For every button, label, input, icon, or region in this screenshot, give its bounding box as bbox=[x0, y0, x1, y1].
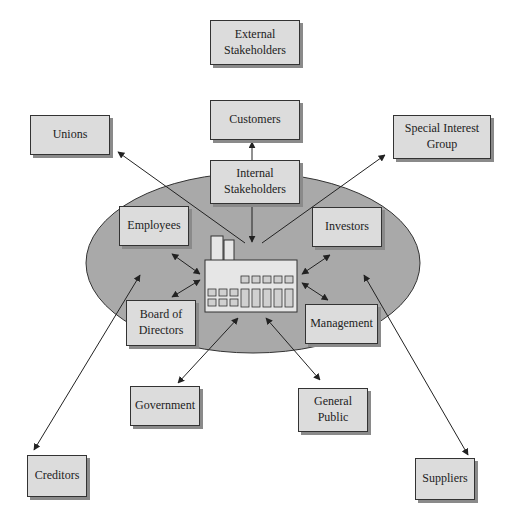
stakeholder-box-special: Special InterestGroup bbox=[393, 115, 491, 159]
stakeholder-box-creditors: Creditors bbox=[27, 455, 87, 497]
stakeholder-diagram bbox=[0, 0, 506, 530]
stakeholder-label: Customers bbox=[229, 112, 280, 128]
stakeholder-label: Investors bbox=[325, 219, 369, 235]
stakeholder-box-investors: Investors bbox=[312, 207, 382, 247]
stakeholder-box-unions: Unions bbox=[30, 115, 110, 155]
arrow-creditors-ellipse bbox=[34, 275, 140, 450]
stakeholder-box-suppliers: Suppliers bbox=[415, 458, 475, 500]
stakeholder-box-external: ExternalStakeholders bbox=[210, 20, 300, 65]
stakeholder-label: Employees bbox=[127, 218, 180, 234]
stakeholder-label: Suppliers bbox=[422, 471, 467, 487]
stakeholder-label: ExternalStakeholders bbox=[224, 27, 286, 58]
stakeholder-box-management: Management bbox=[305, 304, 378, 344]
stakeholder-label: Creditors bbox=[35, 468, 80, 484]
stakeholder-label: GeneralPublic bbox=[314, 394, 352, 425]
stakeholder-box-board: Board ofDirectors bbox=[126, 300, 196, 346]
stakeholder-box-customers: Customers bbox=[210, 100, 300, 140]
arrow-suppliers-ellipse bbox=[364, 275, 468, 455]
stakeholder-label: InternalStakeholders bbox=[224, 166, 286, 197]
stakeholder-label: Management bbox=[310, 316, 373, 332]
stakeholder-label: Special InterestGroup bbox=[405, 121, 479, 152]
stakeholder-box-public: GeneralPublic bbox=[298, 388, 368, 432]
stakeholder-box-internal: InternalStakeholders bbox=[210, 160, 300, 204]
stakeholder-box-employees: Employees bbox=[119, 206, 189, 246]
stakeholder-label: Board ofDirectors bbox=[139, 307, 184, 338]
stakeholder-label: Government bbox=[135, 398, 195, 414]
stakeholder-box-government: Government bbox=[130, 386, 200, 426]
stakeholder-label: Unions bbox=[53, 127, 88, 143]
